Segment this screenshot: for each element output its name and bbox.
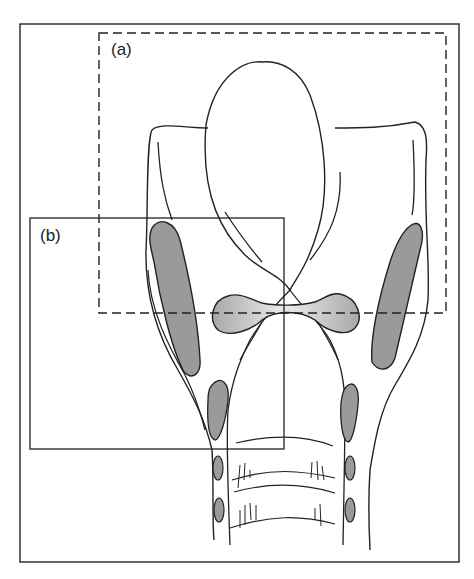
ring-right-2 [345, 498, 355, 522]
region-b-label: (b) [40, 226, 61, 246]
ring-left-2 [214, 498, 224, 522]
region-a-label: (a) [111, 40, 132, 60]
cartilage-right-mid [341, 384, 359, 442]
ring-right-1 [345, 456, 355, 480]
cartilage-right-upper [372, 223, 423, 369]
epiglottis [205, 62, 325, 290]
cartilage-left-mid [208, 380, 229, 440]
ring-left-1 [213, 456, 223, 480]
cartilage-left-upper [150, 222, 200, 376]
larynx-diagram [0, 0, 474, 579]
